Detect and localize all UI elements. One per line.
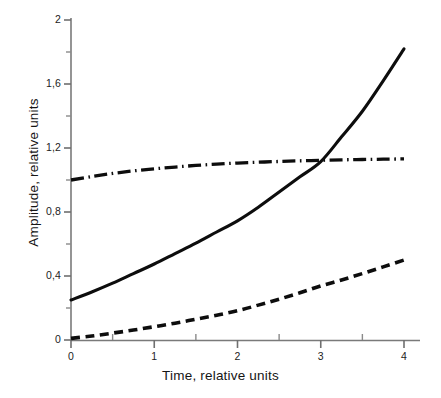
x-tick-label: 3 <box>309 350 333 362</box>
chart-plot-area <box>0 0 441 398</box>
solid-curve <box>71 49 404 300</box>
axes-group <box>71 18 420 341</box>
dashed-curve <box>71 260 404 338</box>
y-axis-ticks <box>64 20 71 340</box>
chart-figure: 00,40,81,21,62 01234 Amplitude, relative… <box>0 0 441 398</box>
y-tick-label: 2 <box>28 13 61 25</box>
x-axis-title: Time, relative units <box>0 368 441 383</box>
y-axis-title: Amplitude, relative units <box>26 48 41 298</box>
y-tick-label: 0 <box>28 333 61 345</box>
x-tick-label: 1 <box>142 350 166 362</box>
data-series-group <box>71 49 404 339</box>
x-tick-label: 0 <box>59 350 83 362</box>
x-tick-label: 2 <box>226 350 250 362</box>
x-tick-label: 4 <box>392 350 416 362</box>
dash-dot-curve <box>71 159 404 180</box>
